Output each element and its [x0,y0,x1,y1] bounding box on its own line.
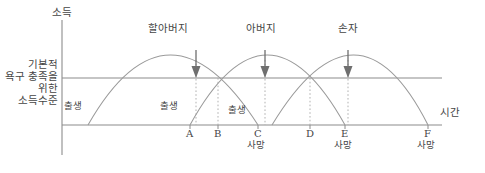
tick-label-e: E [341,128,348,140]
tick-label-d: D [306,128,314,140]
life-cycle-income-diagram: 소득 시간 기본적 욕구 충족을 위한 소득수준 할아버지 아버지 손자 출생 … [0,0,485,173]
arrow-grandson [344,50,353,78]
death-label-f: 사망 [417,140,435,151]
curve-label-father: 아버지 [246,22,276,34]
diagram-canvas [0,0,485,173]
death-label-c: 사망 [247,140,265,151]
birth-label-father: 출생 [160,101,178,112]
basic-needs-line-1: 기본적 [0,58,58,70]
birth-label-grandfather: 출생 [64,101,82,112]
income-curve-father [190,55,345,125]
basic-needs-line-2: 욕구 충족을 [0,70,58,82]
income-curve-grandson [272,55,428,125]
arrow-father [261,50,270,78]
tick-label-c: C [254,128,262,140]
curve-label-grandson: 손자 [338,22,358,34]
basic-needs-income-label: 기본적 욕구 충족을 위한 소득수준 [0,58,58,106]
y-axis-title: 소득 [52,6,72,18]
death-label-e: 사망 [334,140,352,151]
arrow-grandfather [192,50,201,78]
x-axis-title: 시간 [440,106,460,118]
basic-needs-line-4: 소득수준 [0,94,58,106]
tick-label-f: F [424,128,431,140]
tick-label-a: A [186,128,193,140]
curve-label-grandfather: 할아버지 [148,22,188,34]
birth-label-grandson: 출생 [228,105,246,116]
basic-needs-line-3: 위한 [0,82,58,94]
tick-label-b: B [214,128,221,140]
